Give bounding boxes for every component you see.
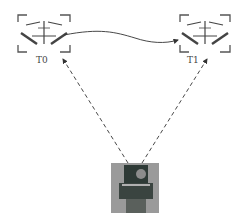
camera-device <box>111 163 159 213</box>
trajectory-curve <box>64 31 178 42</box>
sightline-to-t0 <box>63 59 128 163</box>
diagram-canvas: T0 T1 <box>0 0 246 224</box>
label-t1: T1 <box>187 56 199 65</box>
drone-icon-t1 <box>182 21 228 44</box>
drone-icon-t0 <box>21 21 67 44</box>
label-t0: T0 <box>36 56 48 65</box>
sightline-to-t1 <box>142 59 207 163</box>
diagram-svg <box>0 0 246 224</box>
